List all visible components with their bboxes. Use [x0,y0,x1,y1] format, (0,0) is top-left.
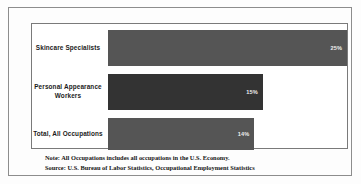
category-label-personal-appearance-workers: Personal Appearance Workers [32,83,108,100]
bar-row: Skincare Specialists 25% [32,30,347,66]
footnote-note-line: Note: All Occupations includes all occup… [45,153,345,163]
bar-skincare-specialists: 25% [108,30,347,66]
bar-track: 14% [108,118,347,150]
plot-area: Skincare Specialists 25% Personal Appear… [31,23,348,149]
bar-series: Skincare Specialists 25% Personal Appear… [32,24,347,148]
footnote: Note: All Occupations includes all occup… [45,153,345,173]
category-label-skincare-specialists: Skincare Specialists [32,44,108,53]
category-label-total-all-occupations: Total, All Occupations [32,130,108,139]
bar-total-all-occupations: 14% [108,118,254,150]
bar-personal-appearance-workers: 15% [108,74,263,110]
bar-value-skincare-specialists: 25% [330,45,342,51]
figure: Skincare Specialists 25% Personal Appear… [0,0,361,184]
bar-value-total-all-occupations: 14% [238,131,250,137]
footnote-source-line: Source: U.S. Bureau of Labor Statistics,… [45,163,345,173]
bar-value-personal-appearance-workers: 15% [246,89,258,95]
bar-track: 15% [108,74,347,110]
figure-outer-frame: Skincare Specialists 25% Personal Appear… [8,7,352,176]
bar-track: 25% [108,30,347,66]
bar-row: Total, All Occupations 14% [32,118,347,150]
bar-row: Personal Appearance Workers 15% [32,74,347,110]
